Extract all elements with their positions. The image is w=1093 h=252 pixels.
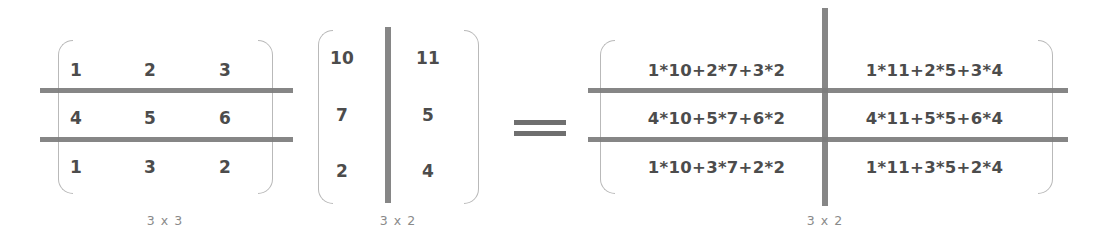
matrix-result-cell-r1c1: 4*11+5*5+6*4 bbox=[832, 103, 1037, 133]
matrix-result-left-bracket bbox=[600, 40, 615, 194]
matrix-result-cell-r1c0: 4*10+5*7+6*2 bbox=[614, 103, 819, 133]
matrix-result-cell-r2c0: 1*10+3*7+2*2 bbox=[614, 152, 819, 182]
matrix-result-group: 1*10+2*7+3*2 1*11+2*5+3*4 4*10+5*7+6*2 4… bbox=[0, 0, 1093, 252]
matrix-result-column-rule bbox=[822, 8, 828, 206]
matrix-result-cell-r0c0: 1*10+2*7+3*2 bbox=[614, 55, 819, 85]
matrix-result-cell-r0c1: 1*11+2*5+3*4 bbox=[832, 55, 1037, 85]
matrix-result-cell-r2c1: 1*11+3*5+2*4 bbox=[832, 152, 1037, 182]
matrix-result-right-bracket bbox=[1038, 40, 1053, 194]
matrix-result-row-rule-2 bbox=[588, 137, 1068, 142]
matrix-result-dimension-label: 3 x 2 bbox=[765, 213, 885, 228]
matrix-multiplication-diagram: 1 2 3 4 5 6 1 3 2 3 x 3 10 11 7 5 2 4 3 … bbox=[0, 0, 1093, 252]
matrix-result-row-rule-1 bbox=[588, 88, 1068, 93]
